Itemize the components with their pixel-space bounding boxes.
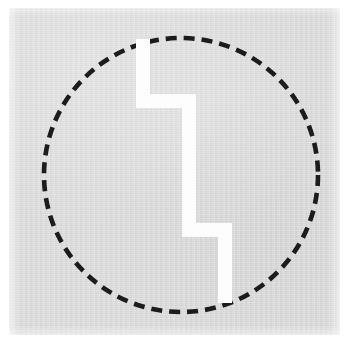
plate-edge-vignette bbox=[9, 8, 340, 335]
gray-plate bbox=[9, 8, 340, 335]
figure-canvas: Dashed circle with white stepped path A … bbox=[0, 0, 359, 349]
paper-grain-texture bbox=[9, 8, 340, 335]
